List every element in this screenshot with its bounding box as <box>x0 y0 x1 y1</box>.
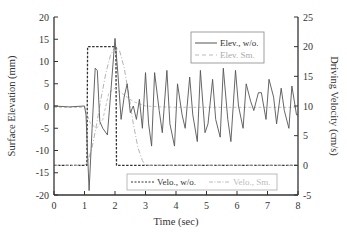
y-tick-label-left: 0 <box>44 101 49 112</box>
legend-label-velo-sm: Velo., Sm. <box>233 177 271 187</box>
legend-label-elev-wo: Elev., w/o. <box>220 38 258 48</box>
legend-velocity: Velo., w/o. Velo., Sm. <box>127 174 277 190</box>
x-tick-label: 6 <box>235 200 240 211</box>
y-tick-label-right: 10 <box>303 101 313 112</box>
y-tick-label-left: -15 <box>36 167 49 178</box>
chart: 012345678 20151050-5-10-15-20 2520151050… <box>0 0 347 239</box>
y-tick-label-left: 5 <box>44 78 49 89</box>
legend-elevation: Elev., w/o. Elev. Sm. <box>191 32 264 63</box>
x-axis-title: Time (sec) <box>154 216 199 228</box>
y-axis-title-right: Driving Velocity (cm/s) <box>328 56 340 156</box>
y-tick-label-right: 5 <box>303 130 308 141</box>
y-tick-label-left: 20 <box>39 12 49 23</box>
x-tick-label: 0 <box>52 200 57 211</box>
x-tick-label: 5 <box>204 200 209 211</box>
x-tick-label: 8 <box>296 200 301 211</box>
y-tick-label-right: 25 <box>303 12 313 23</box>
x-tick-label: 1 <box>82 200 87 211</box>
legend-label-elev-sm: Elev. Sm. <box>220 50 255 60</box>
x-tick-label: 4 <box>174 200 179 211</box>
y-tick-label-right: 20 <box>303 41 313 52</box>
y-tick-label-left: 10 <box>39 56 49 67</box>
y-tick-label-right: 0 <box>303 160 308 171</box>
y-tick-label-right: -5 <box>303 190 311 201</box>
y-ticks-right: 2520151050-5 <box>294 12 313 201</box>
y-tick-label-left: -20 <box>36 190 49 201</box>
x-ticks: 012345678 <box>52 191 301 211</box>
y-tick-label-left: 15 <box>39 34 49 45</box>
y-tick-label-left: -5 <box>41 123 49 134</box>
x-tick-label: 7 <box>265 200 270 211</box>
x-tick-label: 3 <box>143 200 148 211</box>
y-axis-title-left: Surface Elevation (mm) <box>6 55 18 156</box>
x-tick-label: 2 <box>113 200 118 211</box>
y-tick-label-right: 15 <box>303 71 313 82</box>
legend-label-velo-wo: Velo., w/o. <box>157 177 196 187</box>
y-tick-label-left: -10 <box>36 145 49 156</box>
